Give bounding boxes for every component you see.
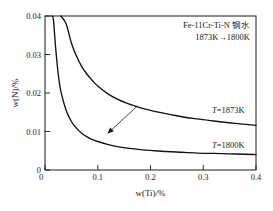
- x-tick-label-3: 0.3: [198, 172, 209, 182]
- transition-arrow: [107, 106, 137, 134]
- x-tick-label-2: 0.2: [145, 172, 156, 182]
- solubility-chart: 0 0.1 0.2 0.3 0.4 0 0.01 0.02 0.03 0.04 …: [0, 0, 273, 211]
- curve-label-1873k-value: =1873K: [217, 105, 246, 115]
- y-tick-label-3: 0.03: [26, 50, 41, 60]
- curve-label-1800k-value: =1800K: [217, 140, 246, 150]
- y-tick-label-2: 0.02: [26, 88, 41, 98]
- x-tick-label-4: 0.4: [251, 172, 262, 182]
- curve-label-1873k: T=1873K: [212, 105, 246, 115]
- x-axis-title: w(Ti)/%: [135, 188, 166, 198]
- x-tick-label-1: 0.1: [92, 172, 103, 182]
- y-tick-label-1: 0.01: [26, 127, 41, 137]
- y-tick-label-4: 0.04: [26, 11, 42, 21]
- x-axis-ticks: [45, 165, 256, 170]
- curve-label-1800k: T=1800K: [212, 140, 246, 150]
- y-tick-label-0: 0: [37, 165, 41, 175]
- y-axis-title: w(N)/%: [10, 78, 20, 107]
- chart-figure: 0 0.1 0.2 0.3 0.4 0 0.01 0.02 0.03 0.04 …: [0, 0, 273, 211]
- y-axis-ticks: [45, 16, 50, 170]
- annotation-temperature-range: 1873K→1800K: [195, 32, 251, 42]
- annotation-alloy: Fe-11Cr-Ti-N 钢水: [183, 20, 250, 30]
